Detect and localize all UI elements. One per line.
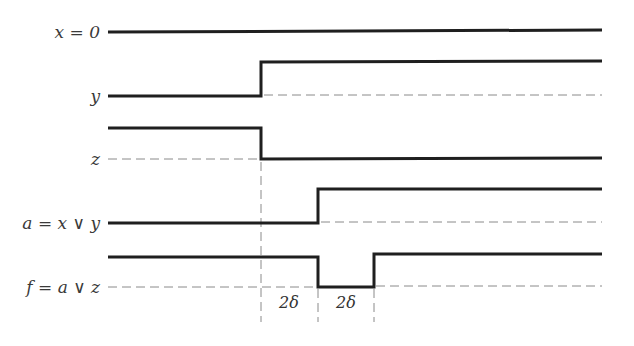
signal-label-x: x = 0 — [55, 22, 101, 42]
waveform-f — [108, 254, 602, 287]
delay-label-1: 2δ — [278, 293, 299, 312]
delay-label-2: 2δ — [335, 293, 356, 312]
signal-label-y: y — [89, 86, 100, 106]
signal-label-z: z — [90, 149, 101, 169]
waveform-a — [108, 189, 602, 223]
signal-label-a: a = x ∨ y — [22, 213, 100, 233]
waveform-z — [108, 128, 602, 159]
timing-diagram: x = 0 y z a = x ∨ y f = a ∨ z 2δ 2δ — [0, 0, 634, 346]
waveform-y — [108, 61, 602, 96]
waveform-x — [108, 30, 602, 32]
signal-label-f: f = a ∨ z — [24, 277, 101, 297]
